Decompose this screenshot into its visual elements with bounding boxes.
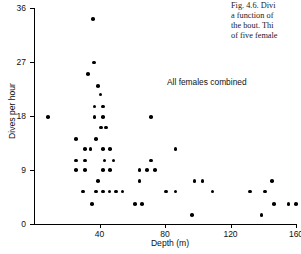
data-point <box>190 213 194 217</box>
data-point <box>91 17 95 21</box>
x-axis-title: Depth (m) <box>110 238 230 248</box>
y-tick-9 <box>30 170 34 171</box>
x-tick-80 <box>165 224 166 228</box>
data-point <box>94 190 98 194</box>
plot-annotation: All females combined <box>167 77 247 87</box>
data-point <box>112 159 116 163</box>
data-point <box>270 179 274 183</box>
x-tick-40 <box>100 224 101 228</box>
data-point <box>86 72 90 76</box>
y-tick-27 <box>30 62 34 63</box>
data-point <box>272 202 276 206</box>
y-axis-title: Dives per hour <box>7 75 17 147</box>
data-point <box>99 126 103 130</box>
y-tick-label-0: 0 <box>4 219 26 229</box>
y-tick-0 <box>30 224 34 225</box>
data-point <box>133 202 137 206</box>
data-point <box>140 202 144 206</box>
data-point <box>90 202 94 206</box>
data-point <box>145 168 149 172</box>
x-tick-120 <box>231 224 232 228</box>
y-tick-label-27: 27 <box>4 57 26 67</box>
data-point <box>93 115 97 119</box>
data-point <box>93 105 97 109</box>
data-point <box>101 115 105 119</box>
data-point <box>101 147 105 151</box>
data-point <box>138 168 142 172</box>
data-point <box>92 61 96 65</box>
data-point <box>174 190 178 194</box>
data-point <box>74 159 78 163</box>
data-point <box>101 168 105 172</box>
data-point <box>83 159 87 163</box>
y-tick-label-36: 36 <box>4 3 26 13</box>
data-point <box>104 126 108 130</box>
data-point <box>81 190 85 194</box>
data-point <box>74 137 78 141</box>
data-point <box>260 213 264 217</box>
data-point <box>294 202 298 206</box>
x-tick-label-160: 160 <box>283 229 301 239</box>
data-point <box>263 190 267 194</box>
data-point <box>174 147 178 151</box>
data-point <box>89 147 93 151</box>
y-axis-line <box>34 8 35 225</box>
data-point <box>83 168 87 172</box>
scatter-plot: 09182736 4080120160 Dives per hour Depth… <box>0 0 301 254</box>
data-point <box>108 168 112 172</box>
y-tick-36 <box>30 8 34 9</box>
data-point <box>83 147 87 151</box>
data-point <box>153 168 157 172</box>
x-tick-label-40: 40 <box>87 229 113 239</box>
data-point <box>96 179 100 183</box>
data-point <box>101 190 105 194</box>
data-point <box>94 137 98 141</box>
y-tick-label-9: 9 <box>4 165 26 175</box>
data-point <box>114 190 118 194</box>
data-point <box>211 190 215 194</box>
data-point <box>108 147 112 151</box>
data-point <box>121 190 125 194</box>
data-point <box>108 190 112 194</box>
data-point <box>96 84 100 88</box>
data-point <box>164 190 168 194</box>
data-point <box>138 179 142 183</box>
data-point <box>287 202 291 206</box>
data-point <box>101 105 105 109</box>
x-tick-160 <box>296 224 297 228</box>
data-point <box>248 190 252 194</box>
data-point <box>46 115 50 119</box>
data-point <box>193 179 197 183</box>
data-point <box>149 159 153 163</box>
data-point <box>74 168 78 172</box>
data-point <box>201 179 205 183</box>
data-point <box>99 93 103 97</box>
data-point <box>103 159 107 163</box>
data-point <box>149 115 153 119</box>
y-tick-18 <box>30 116 34 117</box>
